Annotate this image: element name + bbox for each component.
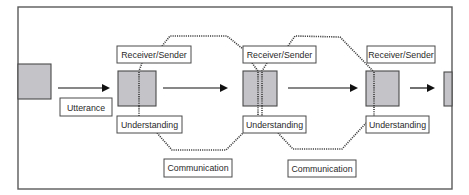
node-origin <box>18 64 51 99</box>
receiver-sender-text-1: Receiver/Sender <box>121 50 187 60</box>
receiver-sender-label-1: Receiver/Sender <box>117 46 191 63</box>
node-stage-2 <box>243 71 277 106</box>
understanding-text-2: Understanding <box>246 120 303 130</box>
understanding-text-3: Understanding <box>369 120 426 130</box>
communication-text-2: Communication <box>291 164 352 174</box>
understanding-label-1: Understanding <box>117 116 182 133</box>
receiver-sender-label-2: Receiver/Sender <box>243 46 316 63</box>
communication-label-1: Communication <box>164 159 232 177</box>
understanding-label-2: Understanding <box>243 116 306 133</box>
node-next <box>444 72 452 106</box>
understanding-label-3: Understanding <box>366 116 429 133</box>
node-stage-1 <box>118 71 156 106</box>
understanding-text-1: Understanding <box>121 120 178 130</box>
receiver-sender-text-3: Receiver/Sender <box>368 50 434 60</box>
utterance-label-box: Utterance <box>60 98 112 116</box>
receiver-sender-label-3: Receiver/Sender <box>367 46 435 63</box>
communication-diagram: Utterance Receiver/Sender Receiver/Sende… <box>0 0 469 195</box>
utterance-label: Utterance <box>67 103 105 113</box>
communication-text-1: Communication <box>167 163 228 173</box>
communication-label-2: Communication <box>288 160 356 177</box>
receiver-sender-text-2: Receiver/Sender <box>247 50 313 60</box>
node-stage-3 <box>366 71 399 106</box>
